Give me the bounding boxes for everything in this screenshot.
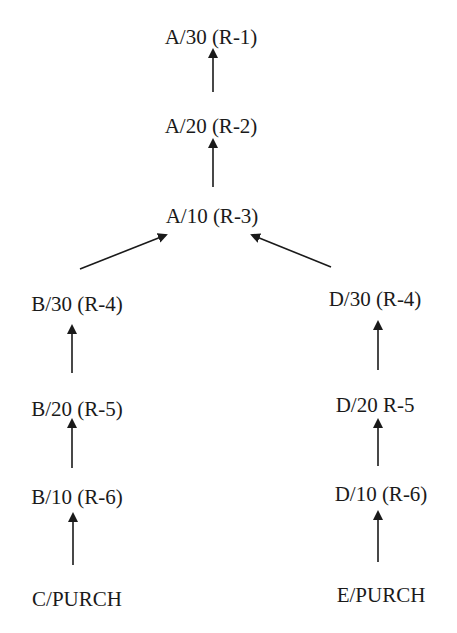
node-e-purch: E/PURCH: [337, 585, 426, 606]
node-b30: B/30 (R-4): [31, 294, 123, 315]
arrow-b30-to-a10: [80, 235, 166, 269]
node-b10: B/10 (R-6): [31, 487, 123, 508]
edges-layer: [0, 0, 457, 633]
node-b20: B/20 (R-5): [31, 399, 123, 420]
node-d30: D/30 (R-4): [329, 289, 422, 310]
node-a10: A/10 (R-3): [166, 206, 259, 227]
arrow-d30-to-a10: [252, 235, 331, 267]
bom-routing-diagram: A/30 (R-1) A/20 (R-2) A/10 (R-3) B/30 (R…: [0, 0, 457, 633]
node-d20: D/20 R-5: [336, 395, 415, 416]
node-a30: A/30 (R-1): [165, 27, 258, 48]
node-d10: D/10 (R-6): [335, 484, 428, 505]
node-c-purch: C/PURCH: [32, 589, 122, 610]
node-a20: A/20 (R-2): [165, 116, 258, 137]
